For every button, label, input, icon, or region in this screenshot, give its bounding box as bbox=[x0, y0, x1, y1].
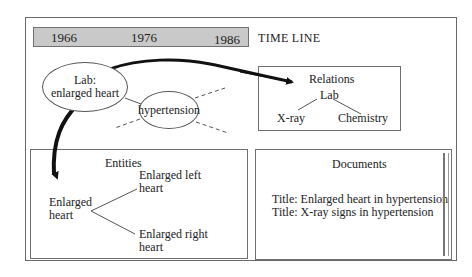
entity-child-left[interactable]: Enlarged left heart bbox=[139, 169, 201, 195]
timeline-bar[interactable]: 1966 1976 1986 bbox=[33, 27, 249, 47]
documents-panel: Documents Title: Enlarged heart in hyper… bbox=[255, 149, 452, 260]
relations-title: Relations bbox=[309, 72, 354, 87]
entities-title: Entities bbox=[105, 156, 142, 171]
entity-child-right[interactable]: Enlarged right heart bbox=[139, 228, 208, 254]
timeline-year-1986[interactable]: 1986 bbox=[214, 32, 240, 48]
timeline-label: TIME LINE bbox=[258, 31, 320, 46]
entity-child-right-line2: heart bbox=[139, 241, 208, 254]
relations-panel: Relations Lab X-ray Chemistry bbox=[258, 66, 401, 131]
documents-scrollbar[interactable] bbox=[443, 153, 449, 256]
hypertension-node-label: hypertension bbox=[138, 104, 200, 117]
lab-enlarged-heart-node[interactable]: Lab: enlarged heart bbox=[42, 62, 128, 112]
entity-root-line2: heart bbox=[49, 209, 92, 222]
timeline-year-1966[interactable]: 1966 bbox=[51, 30, 77, 46]
timeline-year-1976[interactable]: 1976 bbox=[131, 30, 157, 46]
document-item[interactable]: Title: X-ray signs in hypertension bbox=[272, 206, 434, 219]
entity-child-left-line2: heart bbox=[139, 182, 201, 195]
hypertension-node[interactable]: hypertension bbox=[139, 91, 199, 129]
lab-node-line2: enlarged heart bbox=[51, 87, 119, 100]
entity-root[interactable]: Enlarged heart bbox=[49, 196, 92, 222]
relation-child-xray[interactable]: X-ray bbox=[277, 112, 305, 125]
entities-panel: Entities Enlarged heart Enlarged left he… bbox=[30, 149, 248, 259]
relation-root-lab[interactable]: Lab bbox=[320, 89, 339, 102]
documents-title: Documents bbox=[332, 157, 387, 172]
relation-child-chemistry[interactable]: Chemistry bbox=[338, 112, 388, 125]
